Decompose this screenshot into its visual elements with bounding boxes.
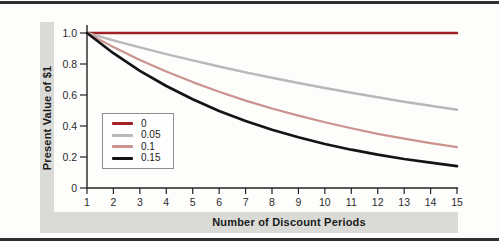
x-tick-label: 1 (84, 196, 90, 208)
x-tick-label: 13 (398, 196, 410, 208)
x-tick-label: 14 (425, 196, 437, 208)
legend: 0 0.05 0.1 0.15 (102, 113, 174, 169)
x-tick-label: 7 (243, 196, 249, 208)
legend-swatch (112, 134, 133, 137)
y-tick-label: 0.6 (62, 89, 77, 101)
x-tick-label: 2 (111, 196, 117, 208)
legend-item: 0 (112, 119, 171, 129)
legend-swatch (112, 145, 133, 148)
x-tick-label: 11 (346, 196, 357, 208)
x-tick-label: 15 (451, 196, 463, 208)
y-tick-label: 0.2 (62, 151, 77, 163)
x-tick-label: 10 (319, 196, 331, 208)
legend-label: 0.15 (141, 153, 160, 163)
legend-swatch (112, 122, 133, 125)
chart-plot: 00.20.40.60.81.0123456789101112131415 (0, 0, 499, 245)
x-tick-label: 5 (190, 196, 196, 208)
x-tick-label: 12 (372, 196, 384, 208)
legend-item: 0.1 (112, 142, 171, 152)
legend-label: 0.05 (141, 130, 160, 140)
y-tick-label: 1.0 (62, 27, 77, 39)
legend-item: 0.15 (112, 153, 171, 163)
bottom-rule (0, 238, 499, 241)
x-tick-label: 3 (137, 196, 143, 208)
x-tick-label: 8 (269, 196, 275, 208)
x-tick-label: 4 (163, 196, 169, 208)
x-tick-label: 6 (216, 196, 222, 208)
legend-swatch (112, 157, 133, 160)
legend-label: 0.1 (141, 142, 155, 152)
pv-chart-figure: Present Value of $1 Number of Discount P… (0, 0, 499, 245)
y-tick-label: 0.8 (62, 58, 77, 70)
x-tick-label: 9 (296, 196, 302, 208)
y-tick-label: 0.4 (62, 120, 77, 132)
y-tick-label: 0 (71, 182, 77, 194)
legend-label: 0 (141, 119, 147, 129)
legend-item: 0.05 (112, 130, 171, 140)
